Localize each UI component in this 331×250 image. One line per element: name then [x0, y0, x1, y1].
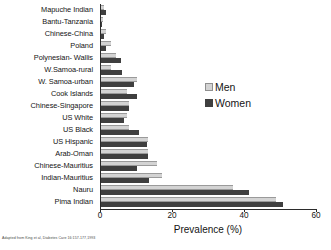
x-tick-label-40: 40 — [239, 212, 248, 220]
bar-men — [100, 89, 127, 94]
legend-swatch-men-icon — [205, 83, 213, 91]
category-label: Mapuche Indian — [0, 4, 97, 16]
category-label: Indian-Mauritius — [0, 172, 97, 184]
category-label: Nauru — [0, 184, 97, 196]
category-label: Pima Indian — [0, 196, 97, 208]
bar-group — [100, 184, 315, 196]
legend-item-women: Women — [205, 98, 251, 109]
category-label: W.Samoa-rural — [0, 64, 97, 76]
x-axis-line — [100, 209, 316, 210]
bar-women — [100, 190, 249, 195]
bar-group — [100, 4, 315, 16]
legend-label-men: Men — [215, 82, 235, 93]
chart-page: Mapuche IndianBantu-TanzaniaChinese-Chin… — [0, 0, 331, 250]
bar-group — [100, 40, 315, 52]
y-axis-line — [100, 4, 101, 209]
bar-men — [100, 65, 111, 70]
bar-group — [100, 64, 315, 76]
bar-men — [100, 137, 148, 142]
category-label: Bantu-Tanzania — [0, 16, 97, 28]
bar-group — [100, 16, 315, 28]
bar-group — [100, 160, 315, 172]
bar-men — [100, 185, 233, 190]
category-label: Arab-Oman — [0, 148, 97, 160]
x-axis-title: Prevalence (%) — [100, 224, 316, 235]
bar-group — [100, 112, 315, 124]
bar-women — [100, 178, 149, 183]
bar-men — [100, 29, 106, 34]
category-label: Polynesian- Wallis — [0, 52, 97, 64]
bar-men — [100, 125, 129, 130]
category-label: Cook Islands — [0, 88, 97, 100]
bar-women — [100, 166, 137, 171]
bar-group — [100, 28, 315, 40]
bar-men — [100, 149, 148, 154]
category-label: US Hispanic — [0, 136, 97, 148]
bar-women — [100, 202, 283, 207]
category-label: Chinese-China — [0, 28, 97, 40]
category-label: Poland — [0, 40, 97, 52]
bar-men — [100, 53, 116, 58]
bar-men — [100, 77, 137, 82]
x-tick-label-60: 60 — [311, 212, 320, 220]
source-caption: Adapted from King et al, Diabetes Care 1… — [2, 236, 95, 240]
category-label: Chinese-Mauritius — [0, 160, 97, 172]
bar-group — [100, 124, 315, 136]
category-label: US White — [0, 112, 97, 124]
bar-chart: Mapuche IndianBantu-TanzaniaChinese-Chin… — [0, 0, 331, 250]
bar-women — [100, 46, 106, 51]
chart-legend: Men Women — [205, 82, 251, 108]
category-label: Chinese-Singapore — [0, 100, 97, 112]
bar-men — [100, 101, 129, 106]
bar-group — [100, 52, 315, 64]
legend-swatch-women-icon — [205, 99, 213, 107]
category-label: W. Samoa-urban — [0, 76, 97, 88]
bar-women — [100, 130, 139, 135]
category-axis-labels: Mapuche IndianBantu-TanzaniaChinese-Chin… — [0, 4, 97, 208]
bar-women — [100, 70, 122, 75]
bar-men — [100, 113, 127, 118]
bar-women — [100, 94, 137, 99]
bar-women — [100, 82, 134, 87]
bar-men — [100, 173, 162, 178]
x-tick-label-20: 20 — [167, 212, 176, 220]
bar-men — [100, 5, 104, 10]
bar-women — [100, 10, 106, 15]
bar-group — [100, 136, 315, 148]
bar-men — [100, 161, 157, 166]
bar-women — [100, 106, 129, 111]
bar-group — [100, 196, 315, 208]
category-label: US Black — [0, 124, 97, 136]
bar-men — [100, 197, 276, 202]
bar-women — [100, 118, 124, 123]
bar-women — [100, 142, 147, 147]
bar-group — [100, 148, 315, 160]
bar-women — [100, 58, 121, 63]
bar-men — [100, 41, 111, 46]
bar-women — [100, 154, 148, 159]
bar-group — [100, 172, 315, 184]
legend-label-women: Women — [215, 98, 251, 109]
legend-item-men: Men — [205, 82, 251, 93]
x-tick-label-0: 0 — [98, 212, 103, 220]
bar-women — [100, 34, 104, 39]
